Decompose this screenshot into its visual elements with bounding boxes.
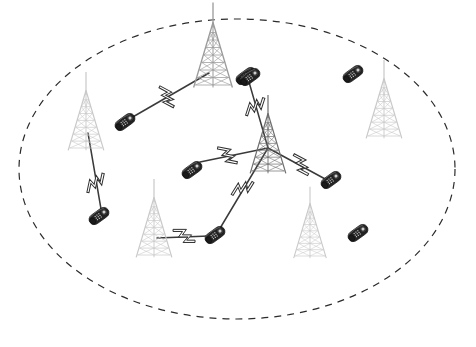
phone-far-se[interactable]: Mobile handset far south-east bbox=[346, 222, 370, 243]
tower-lower-right[interactable]: Base station lower-right bbox=[294, 187, 327, 258]
tower-right[interactable]: Base station right bbox=[366, 60, 402, 138]
tower-lower-left[interactable]: Base station lower-left bbox=[136, 179, 172, 257]
lightning-bolt-icon bbox=[246, 94, 265, 119]
radio-links-layer: Radio link hub to north-east handsetRadi… bbox=[88, 73, 327, 238]
phone-mid-left[interactable]: Mobile handset mid-left bbox=[180, 159, 204, 180]
tower-upper-left[interactable]: Base station upper-left bbox=[194, 3, 233, 88]
link-hub-to-phone-ne: Radio link hub to north-east handset bbox=[249, 82, 268, 148]
phone-south[interactable]: Mobile handset south bbox=[203, 224, 227, 245]
lightning-bolt-icon bbox=[154, 86, 180, 108]
coverage-boundary-ellipse bbox=[19, 19, 455, 319]
lightning-bolt-icon bbox=[288, 154, 314, 176]
tower-left[interactable]: Base station left bbox=[68, 72, 104, 150]
lightning-bolt-icon bbox=[173, 229, 195, 242]
lightning-bolt-icon bbox=[231, 176, 254, 202]
network-diagram-svg: Radio link hub to north-east handsetRadi… bbox=[0, 0, 476, 347]
phone-far-ne[interactable]: Mobile handset far north-east bbox=[341, 63, 365, 84]
coverage-boundary-group bbox=[19, 19, 455, 319]
link-uptower-to-phone-nw: Radio link upper tower to north-west han… bbox=[131, 73, 209, 118]
phone-east[interactable]: Mobile handset east bbox=[319, 169, 343, 190]
diagram-canvas: Radio link hub to north-east handsetRadi… bbox=[0, 0, 476, 347]
phone-nw[interactable]: Mobile handset north-west bbox=[113, 111, 137, 132]
phone-west[interactable]: Mobile handset west bbox=[87, 205, 111, 226]
